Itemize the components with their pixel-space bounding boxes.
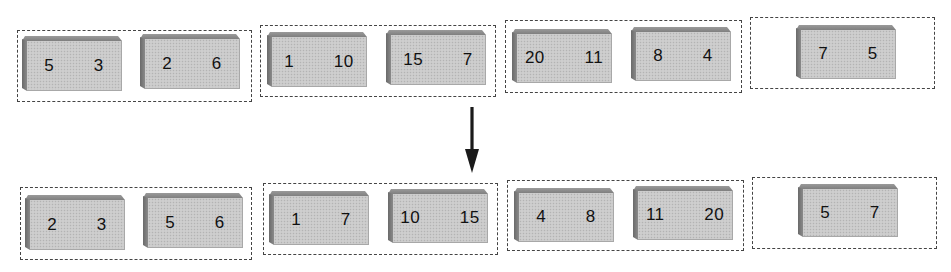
before-block-4-1: 7 5 (796, 25, 896, 79)
before-block-3-1: 20 11 (512, 29, 612, 83)
block-face: 11 20 (638, 191, 733, 240)
block-face: 2 3 (30, 200, 125, 250)
after-block-3-1: 4 8 (514, 188, 614, 242)
down-arrow-icon (462, 105, 482, 175)
block-value-a: 5 (165, 213, 175, 233)
block-value-b: 3 (97, 215, 107, 235)
block-value-b: 11 (584, 48, 603, 68)
block-value-b: 7 (341, 210, 351, 230)
block-value-a: 15 (403, 50, 423, 70)
block-face: 5 3 (27, 41, 122, 91)
block-value-b: 7 (463, 50, 473, 70)
block-value-a: 2 (162, 54, 172, 74)
block-face: 10 15 (393, 194, 488, 243)
before-block-2-1: 1 10 (267, 32, 367, 87)
block-value-a: 4 (536, 207, 546, 227)
block-value-b: 20 (704, 205, 724, 225)
block-face: 5 6 (148, 198, 243, 248)
after-block-1-1: 2 3 (25, 195, 125, 250)
block-face: 7 5 (801, 30, 896, 79)
block-face: 15 7 (391, 35, 486, 85)
block-value-a: 5 (820, 203, 830, 223)
after-block-1-2: 5 6 (143, 193, 243, 248)
after-block-4-1: 5 7 (798, 184, 898, 237)
block-face: 20 11 (517, 34, 612, 83)
block-face: 5 7 (803, 189, 898, 237)
block-value-b: 15 (460, 208, 480, 228)
block-value-a: 11 (646, 205, 665, 225)
block-value-a: 1 (291, 210, 301, 230)
block-value-b: 4 (703, 46, 713, 66)
block-face: 1 7 (274, 196, 369, 245)
block-value-a: 20 (525, 48, 545, 68)
block-value-a: 1 (284, 52, 294, 72)
block-face: 4 8 (519, 193, 614, 242)
block-value-a: 2 (47, 215, 57, 235)
block-value-b: 5 (868, 44, 878, 64)
block-value-b: 6 (212, 54, 222, 74)
after-block-2-2: 10 15 (388, 189, 488, 243)
block-value-b: 10 (334, 52, 354, 72)
block-value-a: 5 (44, 56, 54, 76)
block-value-b: 7 (870, 203, 880, 223)
block-face: 1 10 (272, 37, 367, 87)
before-block-1-1: 5 3 (22, 36, 122, 91)
block-value-b: 6 (215, 213, 225, 233)
block-value-b: 3 (94, 56, 104, 76)
block-value-a: 7 (818, 44, 828, 64)
before-block-2-2: 15 7 (386, 30, 486, 85)
after-block-2-1: 1 7 (269, 191, 369, 245)
block-value-a: 10 (400, 208, 420, 228)
after-block-3-2: 11 20 (633, 186, 733, 240)
block-value-b: 8 (586, 207, 596, 227)
block-face: 2 6 (145, 39, 240, 89)
block-face: 8 4 (636, 32, 731, 81)
block-value-a: 8 (653, 46, 663, 66)
before-block-1-2: 2 6 (140, 34, 240, 89)
before-block-3-2: 8 4 (631, 27, 731, 81)
